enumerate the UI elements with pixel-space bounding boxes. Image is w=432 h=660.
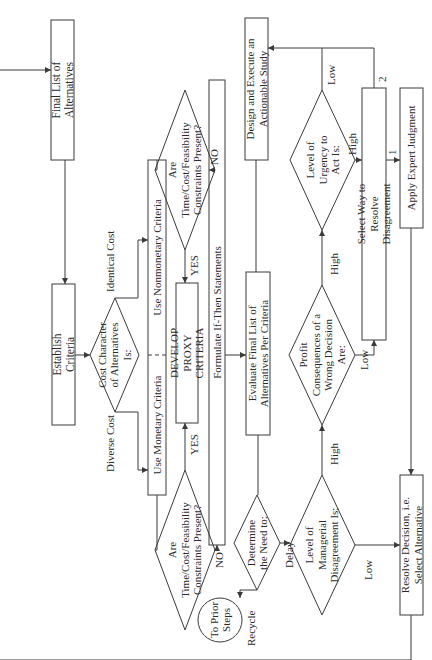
edge-label-identical-cost: Identical Cost [104,231,116,292]
profit-consequences-diamond: Profit Consequences of a Wrong Decision … [295,312,349,398]
evaluate-final-list: Evaluate Final List of Alternatives Per … [246,272,270,435]
flowchart: Final List of Alternatives Establish Cri… [0,0,432,660]
managerial-disagreement-diamond: Level of Managerial Disagreement Is: [295,505,349,585]
establish-criteria-box: Establish Criteria [52,284,75,425]
to-prior-steps-circle: To Prior Steps [200,600,240,640]
determine-need-diamond: Determine the Need to: [236,516,278,570]
edge-label-low-mgr: Low [362,560,374,580]
design-execute-study: Design and Execute an Actionable Study [245,18,268,160]
apply-expert-judgment: Apply Expert Judgment [400,88,423,228]
edge-label-no-top: NO [208,149,220,165]
develop-proxy-criteria: DEVELOP PROXY CRITERIA [176,283,198,423]
edge-label-recycle: Recycle [245,611,257,646]
edge-label-yes-left: YES [188,434,200,455]
resolve-decision-box: Resolve Decision, i.e. Select Alternativ… [400,475,423,615]
edge-label-option-1: 1 [386,150,398,156]
edge-label-high-profit: High [328,253,340,275]
edge-label-diverse-cost: Diverse Cost [104,415,116,472]
final-list-box: Final List of Alternatives [51,20,74,160]
edge-label-low-urgency: Low [325,65,337,85]
edge-label-low-profit: Low [358,350,370,370]
edge-label-no-left: NO [213,552,225,568]
select-way-box: Select Way to Resolve Disagreement [362,88,386,340]
constraints-diamond-top: Are Time/Cost/Feasibility Constraints Pr… [156,122,214,218]
urgency-diamond: Level of Urgency to Act Is: [298,128,348,192]
edge-label-high-mgr: High [328,443,340,465]
edge-label-yes-top: YES [188,255,200,276]
edge-label-option-2: 2 [376,77,388,83]
edge-label-high-urgency: High [346,133,358,155]
edge-label-delay: Delay [283,542,295,568]
use-monetary-criteria: Use Monetary Criteria [148,355,166,495]
constraints-diamond-left: Are Time/Cost/Feasibility Constraints Pr… [156,502,214,598]
cost-character-diamond: Cost Character of Alternatives Is: [90,318,139,392]
